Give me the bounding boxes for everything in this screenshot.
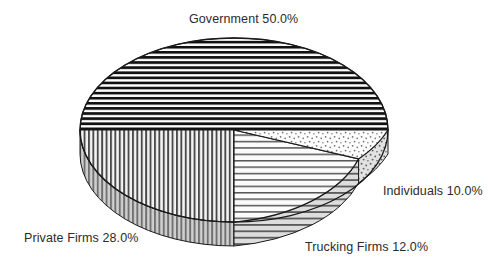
slice-label-trucking-firms: Trucking Firms 12.0%	[305, 240, 428, 255]
pie-slice-private-firms	[80, 130, 234, 222]
slice-label-individuals: Individuals 10.0%	[383, 184, 483, 199]
pie-slice-government	[80, 38, 388, 130]
pie-chart: Government 50.0% Individuals 10.0% Truck…	[0, 0, 499, 274]
slice-label-private-firms: Private Firms 28.0%	[24, 231, 138, 246]
slice-label-government: Government 50.0%	[189, 12, 298, 27]
